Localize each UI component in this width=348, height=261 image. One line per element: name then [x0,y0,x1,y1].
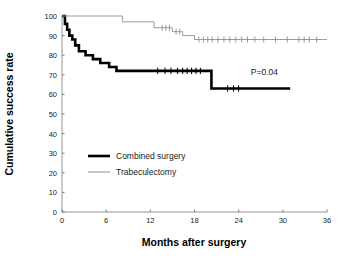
y-tick-label: 70 [49,71,57,80]
y-tick-label: 10 [49,188,57,197]
x-tick-label: 24 [234,216,242,225]
censor-marks-layer [158,25,317,92]
x-tick-label: 30 [279,216,287,225]
x-axis-tick-labels: 061218243036 [60,216,331,225]
survival-chart-figure: 061218243036 0102030405060708090100 Comb… [0,0,348,261]
y-axis-title: Cumulative success rate [3,52,15,175]
y-tick-label: 50 [49,110,57,119]
chart-canvas: 061218243036 0102030405060708090100 Comb… [0,0,348,261]
y-tick-label: 20 [49,169,57,178]
x-axis-title: Months after surgery [142,236,247,248]
y-tick-label: 40 [49,130,57,139]
y-tick-label: 90 [49,32,57,41]
y-tick-label: 30 [49,149,57,158]
y-tick-label: 60 [49,90,57,99]
y-tick-label: 0 [53,208,57,217]
y-tick-label: 80 [49,51,57,60]
x-tick-label: 36 [323,216,331,225]
annotation-layer: P=0.04 [251,67,278,77]
x-tick-label: 18 [190,216,198,225]
legend-label: Trabeculectomy [116,167,177,177]
axis-frame [62,16,327,212]
annotation-p-value: P=0.04 [251,67,278,77]
series-layer [62,16,327,89]
series-line-trabeculectomy [62,16,327,40]
x-tick-label: 6 [104,216,108,225]
chart-legend: Combined surgeryTrabeculectomy [88,151,186,177]
y-tick-label: 100 [44,12,57,21]
x-tick-label: 0 [60,216,64,225]
legend-label: Combined surgery [116,151,186,161]
x-tick-label: 12 [146,216,154,225]
series-line-combined-surgery [62,16,290,89]
y-axis-tick-labels: 0102030405060708090100 [44,12,57,217]
